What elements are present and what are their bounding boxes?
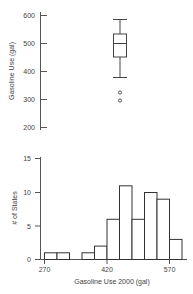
boxplot-y-axis-title: Gasoline Use (gal): [8, 42, 16, 100]
histogram-x-tick-label: 270: [39, 266, 51, 273]
histogram-y-tick-label: 0: [27, 256, 31, 263]
boxplot-y-ticks: [41, 16, 48, 128]
histogram-y-tick-label: 10: [23, 189, 31, 196]
histogram: 15 10 5 0 # of States 270 420 570 Gasoli…: [11, 155, 187, 286]
histogram-bar: [170, 239, 183, 259]
histogram-bar: [82, 253, 95, 260]
histogram-y-ticks: [35, 159, 41, 260]
boxplot-tick-label: 200: [23, 124, 35, 131]
histogram-bar: [132, 219, 145, 259]
histogram-bar: [120, 186, 133, 260]
histogram-bar: [107, 219, 120, 259]
outlier-point: [118, 99, 121, 102]
histogram-y-axis-title: # of States: [11, 191, 18, 225]
histogram-x-axis-title: Gasoline Use 2000 (gal): [74, 278, 150, 286]
outlier-point: [118, 91, 121, 94]
histogram-bar: [45, 253, 58, 260]
boxplot-tick-label: 500: [23, 40, 35, 47]
histogram-bar: [157, 199, 170, 259]
histogram-x-ticks: [45, 260, 170, 265]
histogram-bar: [57, 253, 70, 260]
histogram-y-tick-label: 5: [27, 223, 31, 230]
histogram-bar: [95, 246, 108, 259]
histogram-x-tick-label: 420: [101, 266, 113, 273]
histogram-x-tick-label: 570: [164, 266, 176, 273]
boxplot: 600 500 400 300 200 Gasoline Use (gal): [8, 12, 127, 131]
boxplot-tick-label: 400: [23, 68, 35, 75]
histogram-y-tick-label: 15: [23, 155, 31, 162]
boxplot-tick-label: 600: [23, 12, 35, 19]
chart-canvas: 600 500 400 300 200 Gasoline Use (gal) 1…: [0, 0, 193, 294]
histogram-bar: [145, 193, 158, 260]
iqr-box: [114, 34, 127, 57]
boxplot-tick-label: 300: [23, 96, 35, 103]
